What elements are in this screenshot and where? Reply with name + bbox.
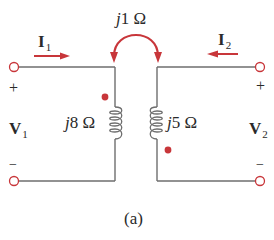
terminal-left-top [10, 63, 19, 72]
arrowhead-left-icon [110, 52, 118, 63]
polarity-dot-right [165, 147, 172, 154]
right-inductor-label: j5 Ω [167, 114, 197, 131]
current-label-i2: I2 [218, 31, 231, 48]
v2-minus-sign: − [256, 158, 264, 172]
left-inductor-label: j8 Ω [65, 114, 95, 131]
right-inductor-coil [150, 107, 162, 139]
current-arrow-i1 [34, 53, 70, 60]
terminal-left-bottom [10, 177, 19, 186]
mutual-reactance-label: j1 Ω [116, 10, 146, 27]
v1-plus-sign: + [9, 80, 18, 96]
terminals [10, 63, 265, 186]
terminal-right-top [256, 63, 265, 72]
polarity-dot-left [102, 94, 109, 101]
v1-minus-sign: − [9, 158, 17, 172]
left-inductor-coil [110, 107, 122, 139]
terminal-right-bottom [256, 177, 265, 186]
voltage-label-v2: V2 [249, 120, 268, 137]
current-arrow-i2 [207, 51, 238, 58]
arrowhead-right-icon [154, 52, 162, 63]
voltage-label-v1: V1 [9, 120, 28, 137]
mutual-coupling-arc [110, 35, 162, 63]
current-label-i1: I1 [38, 33, 51, 50]
v2-plus-sign: + [256, 78, 265, 94]
figure-caption: (a) [124, 210, 143, 227]
